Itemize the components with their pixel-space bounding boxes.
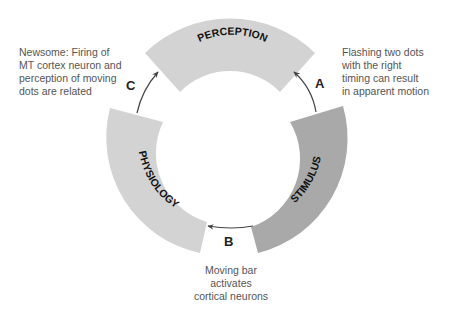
arrow-label-c: C bbox=[126, 78, 135, 93]
arrow-label-b: B bbox=[224, 234, 233, 249]
arrow-c bbox=[137, 72, 158, 113]
arrow-b bbox=[208, 226, 253, 228]
segment-stimulus bbox=[251, 106, 348, 253]
note-c: Newsome: Firing of MT cortex neuron and … bbox=[19, 46, 122, 98]
note-a: Flashing two dots with the right timing … bbox=[342, 46, 429, 98]
note-b: Moving bar activates cortical neurons bbox=[175, 264, 287, 303]
arrow-a bbox=[294, 72, 316, 112]
arrow-label-a: A bbox=[315, 76, 324, 91]
